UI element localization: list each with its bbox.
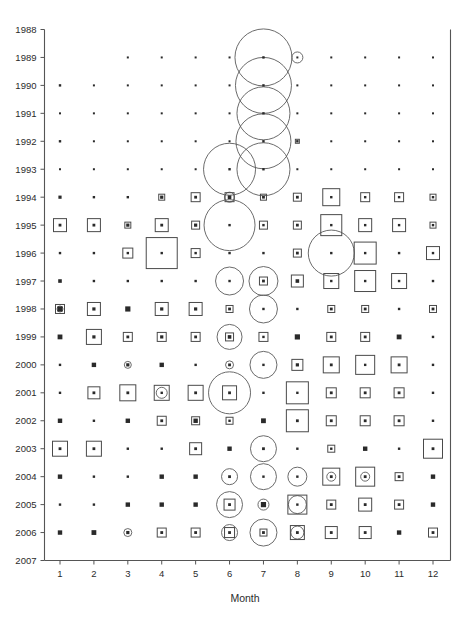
- data-point-marker: [330, 84, 332, 86]
- data-point-marker: [92, 335, 95, 338]
- data-point-marker: [296, 392, 298, 394]
- data-point-marker: [127, 140, 129, 142]
- data-point-marker: [262, 447, 265, 450]
- data-point-marker: [398, 252, 400, 254]
- data-point-marker: [59, 503, 61, 505]
- data-point-marker: [161, 84, 163, 86]
- data-point-marker: [228, 252, 230, 254]
- data-point-marker: [59, 84, 61, 86]
- chart-background: [0, 0, 463, 618]
- data-point-marker: [58, 474, 62, 478]
- y-tick-label: 1990: [15, 80, 36, 91]
- data-point-marker: [398, 168, 400, 170]
- data-point-marker: [194, 364, 196, 366]
- x-tick-label: 8: [295, 568, 300, 579]
- y-tick-label: 2004: [15, 471, 36, 482]
- data-point-marker: [161, 448, 163, 450]
- data-point-marker: [296, 252, 299, 255]
- data-point-marker: [398, 140, 400, 142]
- data-point-marker: [432, 392, 434, 394]
- data-point-marker: [261, 418, 266, 423]
- data-point-marker: [262, 140, 264, 142]
- data-point-marker: [92, 363, 96, 367]
- data-point-marker: [262, 56, 264, 58]
- data-point-marker: [330, 140, 332, 142]
- data-point-marker: [194, 391, 197, 394]
- y-tick-label: 1994: [15, 192, 36, 203]
- data-point-marker: [194, 307, 197, 310]
- data-point-marker: [432, 308, 435, 311]
- data-point-marker: [432, 447, 435, 450]
- data-point-marker: [431, 474, 435, 478]
- y-tick-label: 1997: [15, 276, 36, 287]
- data-point-marker: [364, 364, 366, 366]
- data-point-marker: [228, 475, 231, 478]
- data-point-marker: [93, 503, 95, 505]
- chart-canvas: 1988198919901991199219931994199519961997…: [0, 0, 463, 618]
- data-point-marker: [92, 530, 97, 535]
- data-point-marker: [59, 392, 61, 394]
- data-point-marker: [127, 252, 129, 254]
- data-point-marker: [228, 531, 231, 534]
- data-point-marker: [160, 502, 164, 506]
- data-point-marker: [398, 475, 401, 478]
- data-point-marker: [126, 502, 130, 506]
- data-point-marker: [432, 168, 434, 170]
- data-point-marker: [364, 280, 366, 282]
- data-point-marker: [58, 530, 62, 534]
- data-point-marker: [93, 475, 95, 477]
- data-point-marker: [262, 364, 264, 366]
- data-point-marker: [59, 168, 61, 170]
- data-point-marker: [161, 280, 163, 282]
- data-point-marker: [59, 447, 62, 450]
- data-point-marker: [59, 140, 61, 142]
- x-tick-label: 2: [91, 568, 96, 579]
- data-point-marker: [194, 531, 197, 534]
- data-point-marker: [194, 336, 197, 339]
- data-point-marker: [262, 475, 264, 477]
- x-tick-label: 5: [193, 568, 198, 579]
- data-point-marker: [126, 531, 129, 534]
- data-point-marker: [93, 280, 95, 282]
- data-point-marker: [195, 112, 197, 114]
- data-point-marker: [364, 336, 367, 339]
- data-point-marker: [93, 196, 95, 198]
- data-point-marker: [432, 56, 434, 58]
- data-point-marker: [330, 308, 333, 311]
- data-point-marker: [364, 112, 366, 114]
- data-point-marker: [364, 196, 366, 198]
- data-point-marker: [127, 448, 129, 450]
- data-point-marker: [160, 531, 163, 534]
- data-point-marker: [330, 56, 332, 58]
- data-point-marker: [330, 112, 332, 114]
- data-point-marker: [364, 475, 367, 478]
- data-point-marker: [93, 224, 96, 227]
- data-point-marker: [93, 140, 95, 142]
- x-tick-label: 11: [394, 568, 404, 579]
- data-point-marker: [262, 224, 264, 226]
- data-point-marker: [262, 196, 265, 199]
- data-point-marker: [228, 503, 231, 506]
- data-point-marker: [59, 252, 61, 254]
- data-point-marker: [195, 56, 197, 58]
- data-point-marker: [296, 475, 298, 477]
- data-point-marker: [126, 419, 130, 423]
- y-tick-label: 1993: [15, 164, 36, 175]
- data-point-marker: [229, 112, 231, 114]
- data-point-marker: [229, 140, 231, 142]
- data-point-marker: [160, 196, 163, 199]
- data-point-marker: [432, 84, 434, 86]
- data-point-marker: [160, 307, 163, 310]
- y-tick-label: 2003: [15, 443, 36, 454]
- x-tick-label: 1: [57, 568, 62, 579]
- data-point-marker: [330, 391, 333, 394]
- data-point-marker: [93, 447, 96, 450]
- data-point-marker: [58, 419, 62, 423]
- data-point-marker: [295, 334, 300, 339]
- y-tick-label: 2002: [15, 415, 36, 426]
- data-point-marker: [364, 531, 367, 534]
- data-point-marker: [193, 474, 197, 478]
- data-point-marker: [296, 279, 300, 283]
- data-point-marker: [126, 363, 129, 366]
- data-point-marker: [296, 84, 298, 86]
